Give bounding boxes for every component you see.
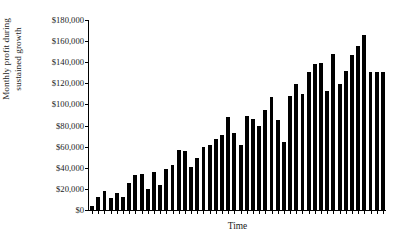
x-axis-tick-mark <box>290 211 291 214</box>
y-axis-tick-label: $100,000 <box>26 99 84 109</box>
x-axis-tick-mark <box>358 211 359 214</box>
bar-chart-figure: Monthly profit during sustained growth $… <box>0 0 398 245</box>
x-axis-tick-mark <box>321 211 322 214</box>
x-axis-tick-mark <box>259 211 260 214</box>
x-axis-tick-mark <box>197 211 198 214</box>
x-axis-tick-mark <box>129 211 130 214</box>
x-axis-tick-mark <box>111 211 112 214</box>
x-axis-tick-mark <box>377 211 378 214</box>
x-axis-tick-mark <box>333 211 334 214</box>
x-axis-tick-mark <box>228 211 229 214</box>
x-axis-tick-mark <box>203 211 204 214</box>
x-axis-tick-mark <box>340 211 341 214</box>
x-axis-tick-mark <box>222 211 223 214</box>
x-axis-tick-mark <box>148 211 149 214</box>
x-axis-tick-mark <box>327 211 328 214</box>
y-axis-tick-label: $120,000 <box>26 78 84 88</box>
y-axis-tick-label: $160,000 <box>26 36 84 46</box>
x-axis-tick-mark <box>142 211 143 214</box>
x-axis-tick-mark <box>309 211 310 214</box>
x-axis-tick-mark <box>253 211 254 214</box>
x-axis-tick-mark <box>216 211 217 214</box>
x-axis-tick-mark <box>117 211 118 214</box>
x-axis-tick-mark <box>166 211 167 214</box>
x-axis-tick-mark <box>104 211 105 214</box>
x-axis-tick-mark <box>302 211 303 214</box>
y-axis-title-line1: Monthly profit during <box>1 18 11 100</box>
x-axis-title: Time <box>89 221 386 231</box>
x-axis-tick-mark <box>154 211 155 214</box>
x-axis-tick-mark <box>346 211 347 214</box>
x-axis-tick-mark <box>179 211 180 214</box>
x-axis-tick-mark <box>352 211 353 214</box>
y-axis-tick-label: $0 <box>26 205 84 215</box>
y-axis-tick-label: $140,000 <box>26 57 84 67</box>
x-axis-tick-mark <box>185 211 186 214</box>
x-axis-tick-mark <box>135 211 136 214</box>
y-axis-tick-labels: $0$20,000$40,000$60,000$80,000$100,000$1… <box>22 0 84 245</box>
x-axis-tick-mark <box>265 211 266 214</box>
x-axis-tick-mark <box>160 211 161 214</box>
y-axis-tick-label: $80,000 <box>26 121 84 131</box>
x-axis-tick-mark <box>98 211 99 214</box>
x-axis-tick-mark <box>247 211 248 214</box>
x-axis-tick-marks <box>89 0 386 245</box>
x-axis-tick-mark <box>210 211 211 214</box>
x-axis-tick-mark <box>371 211 372 214</box>
y-axis-tick-label: $20,000 <box>26 184 84 194</box>
x-axis-tick-mark <box>284 211 285 214</box>
x-axis-tick-mark <box>315 211 316 214</box>
x-axis-tick-mark <box>272 211 273 214</box>
y-axis-tick-label: $40,000 <box>26 163 84 173</box>
x-axis-tick-mark <box>296 211 297 214</box>
x-axis-tick-mark <box>364 211 365 214</box>
x-axis-tick-mark <box>241 211 242 214</box>
y-axis-tick-label: $180,000 <box>26 15 84 25</box>
x-axis-tick-mark <box>191 211 192 214</box>
x-axis-tick-mark <box>234 211 235 214</box>
x-axis-tick-mark <box>278 211 279 214</box>
x-axis-tick-mark <box>92 211 93 214</box>
y-axis-tick-label: $60,000 <box>26 142 84 152</box>
x-axis-tick-mark <box>123 211 124 214</box>
x-axis-tick-mark <box>383 211 384 214</box>
x-axis-tick-mark <box>173 211 174 214</box>
